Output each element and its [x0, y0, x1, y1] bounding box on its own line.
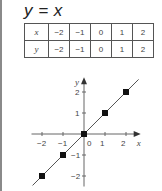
x-axis-arrow-icon — [134, 131, 141, 137]
y-axis-arrow-icon — [81, 77, 87, 84]
data-point-marker — [81, 131, 87, 137]
x-tick-label: 1 — [100, 139, 105, 148]
x-tick-label: −1 — [58, 139, 68, 148]
x-tick-label: 0 — [87, 139, 92, 148]
x-tick-label: −2 — [37, 139, 47, 148]
data-point-marker — [39, 173, 45, 179]
y-tick-label: 2 — [75, 88, 80, 97]
x-axis-label: x — [136, 138, 141, 148]
y-tick-label: −1 — [71, 151, 81, 160]
y-tick-label: 1 — [75, 109, 80, 118]
x-tick-label: 2 — [121, 139, 126, 148]
data-point-marker — [123, 89, 129, 95]
data-point-marker — [102, 110, 108, 116]
y-axis-label: y — [74, 77, 79, 87]
plot-layer: xy−2−1012−2−112 — [32, 77, 141, 186]
data-point-marker — [60, 152, 66, 158]
coordinate-plot: xy−2−1012−2−112 — [0, 0, 162, 191]
y-tick-label: −2 — [71, 172, 81, 181]
